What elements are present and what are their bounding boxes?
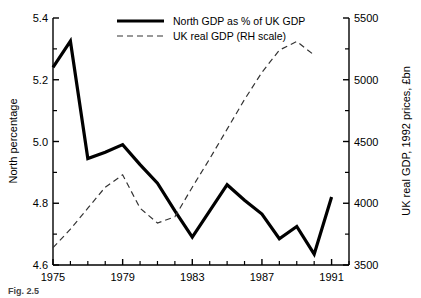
right-axis-tick-label: 5000 bbox=[354, 74, 378, 86]
right-axis-tick-label: 5500 bbox=[354, 12, 378, 24]
right-axis-ticks bbox=[343, 18, 349, 265]
left-axis-ticks bbox=[53, 18, 59, 265]
series-line-1 bbox=[53, 41, 314, 247]
legend-label-1: UK real GDP (RH scale) bbox=[173, 30, 286, 42]
x-axis-tick-labels: 19751979198319871991 bbox=[41, 271, 344, 283]
x-axis-ticks bbox=[53, 259, 349, 265]
x-axis-tick-label: 1975 bbox=[41, 271, 65, 283]
plot-frame bbox=[53, 18, 349, 265]
left-axis-tick-label: 5.0 bbox=[33, 136, 48, 148]
x-axis-tick-label: 1991 bbox=[319, 271, 343, 283]
left-axis-tick-label: 4.8 bbox=[33, 197, 48, 209]
figure-caption: Fig. 2.5 bbox=[8, 286, 39, 296]
figure-root: 4.64.85.05.25.4 35004000450050005500 197… bbox=[0, 0, 421, 298]
legend-label-0: North GDP as % of UK GDP bbox=[173, 15, 305, 27]
left-axis-tick-label: 5.2 bbox=[33, 74, 48, 86]
x-axis-tick-label: 1987 bbox=[250, 271, 274, 283]
right-axis-tick-label: 3500 bbox=[354, 259, 378, 271]
x-axis-tick-label: 1979 bbox=[110, 271, 134, 283]
left-axis-tick-labels: 4.64.85.05.25.4 bbox=[33, 12, 48, 271]
right-axis-tick-label: 4000 bbox=[354, 197, 378, 209]
left-axis-tick-label: 5.4 bbox=[33, 12, 48, 24]
right-axis-title: UK real GDP, 1992 prices, £bn bbox=[400, 66, 412, 216]
right-axis-tick-labels: 35004000450050005500 bbox=[354, 12, 378, 271]
chart-canvas: 4.64.85.05.25.4 35004000450050005500 197… bbox=[0, 0, 421, 298]
left-axis-tick-label: 4.6 bbox=[33, 259, 48, 271]
left-axis-title: North percentage bbox=[7, 99, 19, 184]
x-axis-tick-label: 1983 bbox=[180, 271, 204, 283]
right-axis-tick-label: 4500 bbox=[354, 136, 378, 148]
chart-legend: North GDP as % of UK GDPUK real GDP (RH … bbox=[117, 15, 305, 42]
data-series-layer bbox=[53, 41, 332, 254]
series-line-0 bbox=[53, 41, 332, 254]
